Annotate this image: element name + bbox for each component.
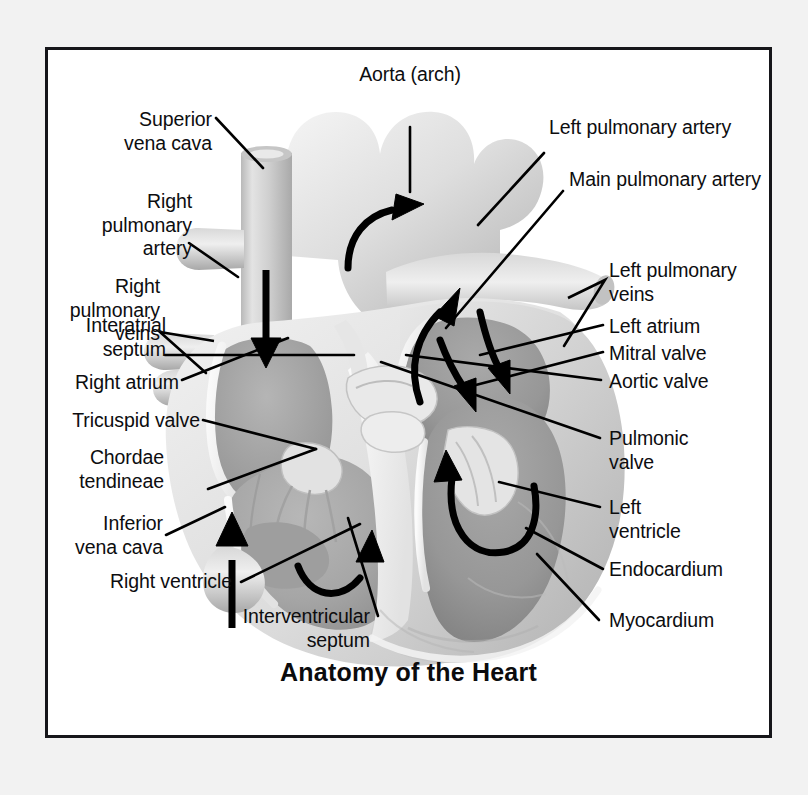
label-left-atrium: Left atrium	[609, 315, 759, 339]
leader-pulmonic-valve	[381, 362, 600, 438]
label-inferior-vena-cava: Inferior vena cava	[58, 512, 163, 559]
leader-myocardium	[537, 554, 599, 620]
label-endocardium: Endocardium	[609, 558, 779, 582]
label-aorta-arch: Aorta (arch)	[340, 63, 480, 87]
label-chordae-tendineae: Chordae tendineae	[54, 446, 164, 493]
leader-right-pulmonary-artery	[189, 243, 238, 277]
leader-aortic-valve	[406, 355, 601, 380]
label-interatrial-septum: Interatrial septum	[54, 314, 166, 361]
label-superior-vena-cava: Superior vena cava	[102, 108, 212, 155]
label-mitral-valve: Mitral valve	[609, 342, 759, 366]
diagram-stage: Superior vena cava Right pulmonary arter…	[48, 50, 769, 735]
leader-main-pulmonary-artery	[446, 191, 563, 328]
leader-left-pulmonary-artery	[478, 153, 544, 225]
leader-mitral-valve	[468, 352, 603, 387]
leader-tricuspid-valve	[203, 420, 316, 449]
leader-endocardium	[526, 528, 603, 569]
leader-left-ventricle	[499, 482, 600, 507]
label-right-atrium: Right atrium	[48, 371, 179, 395]
figure-frame: Superior vena cava Right pulmonary arter…	[45, 47, 772, 738]
label-pulmonic-valve: Pulmonic valve	[609, 427, 749, 474]
label-right-ventricle: Right ventricle	[80, 570, 232, 594]
leader-left-atrium	[480, 325, 603, 355]
label-myocardium: Myocardium	[609, 609, 779, 633]
leader-right-atrium	[182, 338, 288, 380]
label-right-pulmonary-artery: Right pulmonary artery	[72, 190, 192, 261]
label-left-pulmonary-veins: Left pulmonary veins	[609, 259, 769, 306]
leader-right-ventricle	[241, 524, 360, 582]
figure-title: Anatomy of the Heart	[48, 658, 769, 687]
label-interventricular-septum: Interventricular septum	[210, 605, 370, 652]
leader-superior-vena-cava	[216, 118, 263, 168]
label-aortic-valve: Aortic valve	[609, 370, 759, 394]
leader-chordae-tendineae	[208, 449, 316, 489]
leader-right-pulmonary-veins	[160, 332, 214, 373]
leader-left-pulmonary-veins	[564, 280, 605, 346]
label-main-pulmonary-artery: Main pulmonary artery	[569, 168, 799, 192]
label-tricuspid-valve: Tricuspid valve	[48, 409, 200, 433]
label-left-ventricle: Left ventricle	[609, 496, 739, 543]
label-left-pulmonary-artery: Left pulmonary artery	[549, 116, 774, 140]
leader-interventricular-septum	[348, 518, 378, 616]
leader-inferior-vena-cava	[166, 507, 225, 535]
figure-root: Superior vena cava Right pulmonary arter…	[0, 0, 808, 795]
